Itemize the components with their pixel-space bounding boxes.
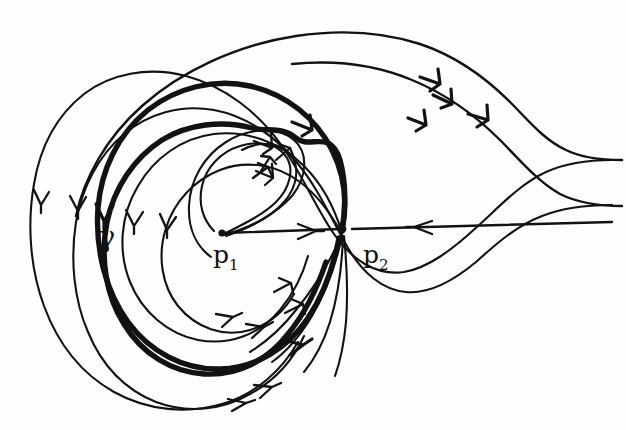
orbit-middle — [122, 133, 342, 342]
orbit-outer-1 — [30, 72, 612, 411]
label-p2: p2 — [363, 240, 389, 274]
label-p2-base: p — [363, 240, 379, 269]
orbit-core-outer-arm — [201, 143, 291, 234]
arrow-fan-1 — [274, 278, 293, 293]
exterior-orbit-1 — [76, 32, 622, 216]
label-gamma: γ — [99, 221, 115, 252]
orbit-core-spiral-2 — [189, 130, 304, 257]
arrow-gamma-upper-right — [292, 115, 312, 136]
arrow-inner-bottom — [216, 313, 242, 327]
label-p1-sub: 1 — [229, 256, 239, 274]
equilibrium-point-p2 — [338, 225, 347, 234]
arrow-exterior-2 — [468, 105, 488, 127]
phase-portrait-figure: p1 p2 γ — [0, 0, 626, 430]
label-p2-sub: 2 — [379, 256, 389, 274]
arrow-inner-left — [160, 214, 176, 238]
arrow-outer-1-left — [34, 190, 49, 213]
orbit-core-spiral — [201, 143, 297, 236]
orbit-middle-path — [122, 133, 342, 341]
label-p1: p1 — [213, 240, 239, 274]
arrow-outer-1-bottom — [228, 399, 255, 411]
equilibrium-point-p1 — [218, 229, 225, 236]
arrow-outer-2-right — [408, 110, 426, 131]
phase-portrait-canvas: p1 p2 γ — [0, 0, 626, 430]
label-p1-base: p — [213, 240, 229, 269]
exterior-orbit-1-path — [76, 32, 622, 216]
orbit-outer-1-path — [30, 72, 612, 410]
arrow-middle-left — [126, 210, 143, 234]
